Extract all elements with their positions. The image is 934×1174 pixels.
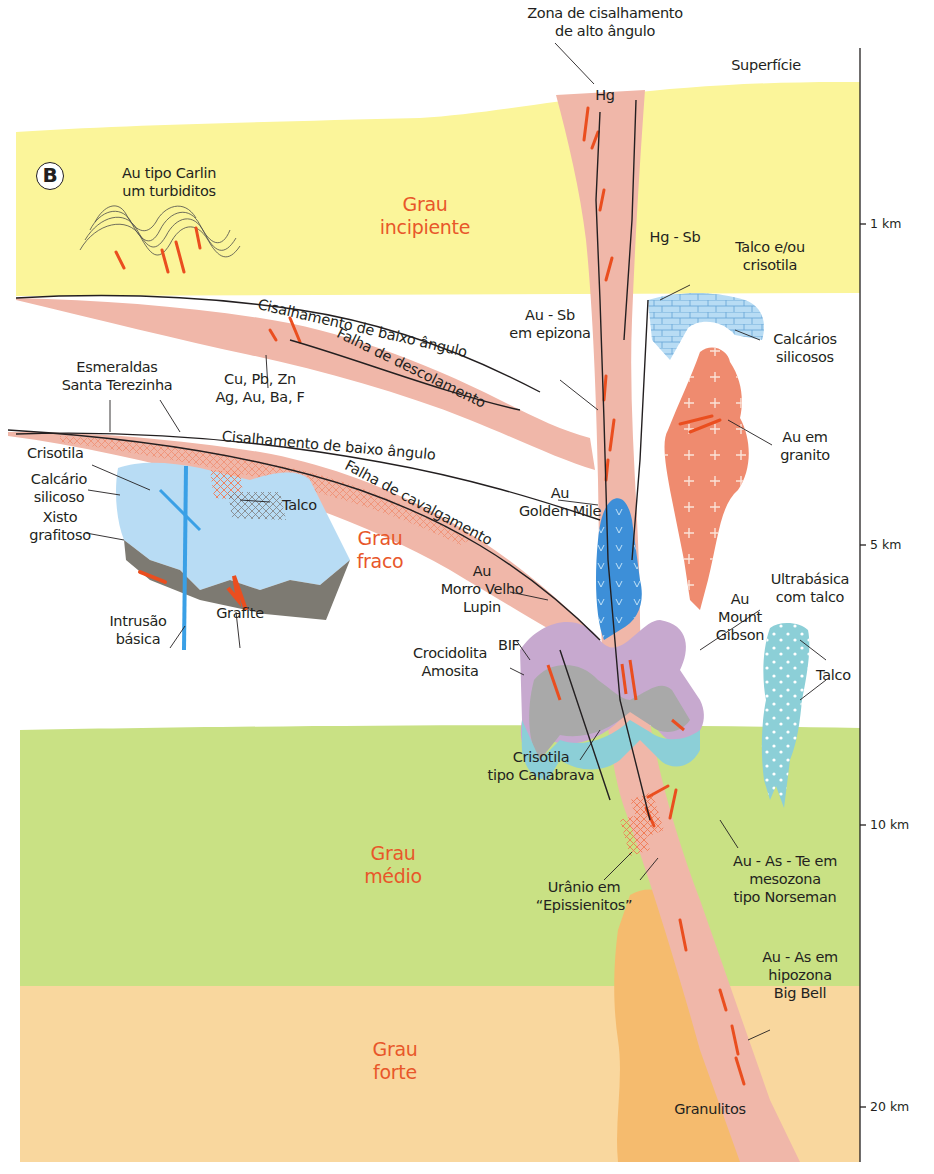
granulitos-label: Granulitos (660, 1100, 760, 1118)
intrusao-basica-label: Intrusão básica (100, 612, 176, 648)
talco-right-label: Talco (816, 666, 851, 684)
calcarios-silicosos-label: Calcários silicosos (760, 330, 850, 366)
talco-left-label: Talco (282, 496, 317, 514)
au-as-label: Au - As em hipozona Big Bell (750, 948, 850, 1002)
xisto-grafitoso-label: Xisto grafitoso (22, 508, 98, 544)
basic-intrusion (184, 466, 186, 650)
hg-sb-label: Hg - Sb (640, 228, 710, 246)
au-golden-mile-label: Au Golden Mile (505, 484, 615, 520)
uranio-label: Urânio em “Epissienitos” (526, 878, 642, 914)
calcario-silicoso-label: Calcário silicoso (24, 470, 94, 506)
grade-incipiente-label: Grau incipiente (365, 193, 485, 239)
au-granito-label: Au em granito (770, 428, 840, 464)
talco-crisotila-label: Talco e/ou crisotila (720, 238, 820, 274)
depth-scale (860, 48, 866, 1162)
au-mount-gibson-label: Au Mount Gibson (700, 590, 780, 644)
grade-medio-label: Grau médio (348, 842, 438, 888)
depth-tick-20km: 20 km (870, 1099, 909, 1114)
carlin-label: Au tipo Carlin um turbiditos (104, 164, 234, 200)
panel-label: B (36, 162, 64, 190)
au-morro-velho-label: Au Morro Velho Lupin (432, 562, 532, 616)
depth-tick-10km: 10 km (870, 817, 909, 832)
crisotila-label: Crisotila (27, 444, 83, 462)
grade-forte-label: Grau forte (355, 1038, 435, 1084)
grafite-label: Grafite (205, 604, 275, 622)
grade-fraco-label: Grau fraco (335, 527, 425, 573)
depth-tick-1km: 1 km (870, 216, 901, 231)
au-sb-label: Au - Sb em epizona (500, 306, 600, 342)
cu-pb-zn-label: Cu, Pb, Zn Ag, Au, Ba, F (200, 370, 320, 406)
crocidolita-label: Crocidolita Amosita (388, 644, 512, 680)
depth-tick-5km: 5 km (870, 537, 901, 552)
crisotila-canabrava-label: Crisotila tipo Canabrava (476, 748, 606, 784)
esmeraldas-label: Esmeraldas Santa Terezinha (52, 358, 182, 394)
high-angle-shear-label: Zona de cisalhamento de alto ângulo (505, 4, 705, 40)
au-as-te-label: Au - As - Te em mesozona tipo Norseman (720, 852, 850, 906)
hg-label: Hg (590, 86, 620, 104)
surface-label: Superfície (716, 56, 816, 74)
